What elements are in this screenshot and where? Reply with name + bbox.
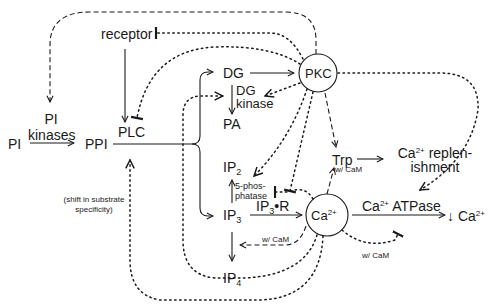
ca-replenishment-label: Ca2+ replen- ishment	[387, 146, 483, 174]
ip2-label: IP2	[223, 160, 241, 174]
edge-pkc-plc	[137, 47, 300, 118]
edge-pkc-pikinases	[50, 12, 316, 102]
dg-kinase-label: DG kinase	[236, 84, 274, 110]
pathway-diagram: receptor PI PI kinases PPI PLC DG DG kin…	[0, 0, 496, 308]
ca-atpase-label: Ca2+ ATPase	[362, 199, 441, 213]
dg-kinase-line2: kinase	[236, 97, 274, 110]
ca-decrease-label: ↓ Ca2+	[447, 209, 485, 223]
dg-label: DG	[223, 66, 244, 80]
ip3-label: IP3	[223, 208, 241, 222]
edge-ca-trp	[327, 168, 334, 194]
shift-line1: (shift in substrate	[60, 195, 128, 205]
w-cam-atpase-annotation: w/ CaM	[362, 252, 389, 260]
w-cam-ip4-annotation: w/ CaM	[262, 236, 289, 244]
pkc-label: PKC	[305, 67, 332, 80]
receptor-label: receptor	[101, 27, 152, 41]
pa-label: PA	[223, 117, 241, 131]
edge-branch-ip3	[192, 144, 213, 216]
shift-substrate-annotation: (shift in substrate specificity)	[60, 195, 128, 215]
ppi-label: PPI	[85, 137, 108, 151]
pi-kinases-label: PI kinases	[28, 112, 74, 142]
ip4-label: IP4	[223, 271, 241, 285]
w-cam-trp-annotation: w/ CaM	[335, 166, 362, 174]
pi-kinases-line2: kinases	[28, 128, 74, 142]
ip3r-label: IP3•R	[256, 199, 289, 213]
five-phosphatase-line1: 5-phos-	[235, 181, 267, 191]
shift-line2: specificity)	[60, 205, 128, 215]
pi-kinases-line1: PI	[28, 112, 74, 126]
edge-pkc-trp	[325, 93, 336, 147]
edge-pkc-5phosphatase-inhibit	[290, 92, 313, 191]
ca-label: Ca2+	[311, 209, 337, 222]
ca-replenishment-line1: Ca2+ replen-	[387, 146, 483, 160]
ca-replenishment-line2: ishment	[387, 160, 483, 174]
plc-label: PLC	[118, 125, 145, 139]
edge-ca-caatpase	[342, 230, 398, 243]
pi-label: PI	[8, 137, 21, 151]
